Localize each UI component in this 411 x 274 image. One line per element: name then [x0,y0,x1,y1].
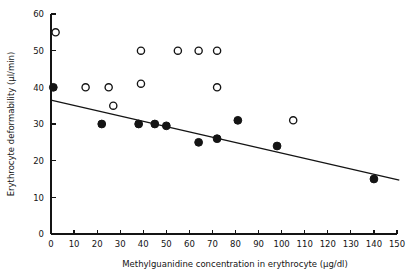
data-point-filled [234,116,242,124]
x-tick-label: 140 [366,239,382,249]
x-tick-label: 40 [138,239,149,249]
x-tick-label: 130 [343,239,359,249]
x-tick-label: 50 [161,239,172,249]
regression-line [51,100,399,180]
x-tick-label: 70 [207,239,218,249]
data-point-filled [49,83,57,91]
scatter-plot: 0102030405060708090100110120130140150 01… [0,0,411,274]
x-tick-label: 90 [253,239,264,249]
data-point-open [110,102,117,109]
data-point-open [174,47,181,54]
data-point-filled [151,120,159,128]
x-tick-label: 150 [389,239,405,249]
y-tick-label: 40 [33,83,44,93]
y-tick-label: 50 [33,46,44,56]
x-tick-label: 110 [297,239,313,249]
y-axis-title: Erythrocyte deformability (µl/min) [6,52,16,197]
x-tick-label: 10 [69,239,80,249]
figure-container: 0102030405060708090100110120130140150 01… [0,0,411,274]
y-tick-label: 60 [33,9,44,19]
x-tick-label: 120 [320,239,336,249]
data-point-open [105,84,112,91]
data-point-open [213,84,220,91]
data-point-open [213,47,220,54]
data-series-open-circles [52,29,297,124]
y-tick-label: 0 [39,229,44,239]
data-point-filled [273,142,281,150]
data-point-filled [135,120,143,128]
x-axis-title: Methylguanidine concentration in erythro… [122,259,348,269]
data-point-filled [370,175,378,183]
data-point-open [137,80,144,87]
data-point-open [82,84,89,91]
y-tick-label: 20 [33,156,44,166]
data-point-open [195,47,202,54]
trend-line [51,100,399,180]
x-tick-label: 60 [184,239,195,249]
x-tick-label: 20 [92,239,103,249]
x-axis-tick-labels: 0102030405060708090100110120130140150 [48,239,405,249]
data-point-open [290,117,297,124]
data-point-filled [195,138,203,146]
y-tick-label: 30 [33,119,44,129]
x-tick-label: 0 [48,239,53,249]
x-tick-label: 100 [274,239,290,249]
y-tick-label: 10 [33,193,44,203]
data-point-filled [98,120,106,128]
x-tick-label: 30 [115,239,126,249]
y-axis-tick-labels: 0102030405060 [33,9,44,239]
data-point-filled [213,135,221,143]
data-point-open [137,47,144,54]
data-series-filled-circles [49,83,377,182]
y-axis-ticks [51,14,56,234]
data-point-open [52,29,59,36]
data-point-filled [162,122,170,130]
x-tick-label: 80 [230,239,241,249]
